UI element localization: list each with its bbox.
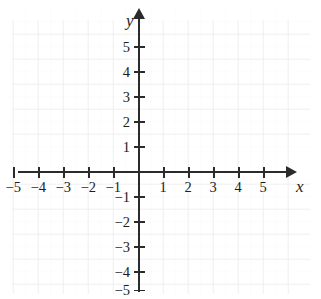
y-tick-label: 5 [104,40,130,55]
y-axis-tick [134,196,145,198]
x-axis-tick [113,167,115,178]
y-axis-tick [134,221,145,223]
y-tick-label: −2 [104,215,130,230]
y-axis-arrow-icon [133,8,145,19]
y-axis-tick [134,46,145,48]
y-tick-label: −5 [104,283,130,298]
x-axis-tick [13,167,15,178]
x-axis-label: x [296,178,304,195]
x-axis-tick [213,167,215,178]
y-axis-tick [134,271,145,273]
y-tick-label: 2 [104,115,130,130]
y-axis-label: y [126,12,134,29]
y-tick-label: 3 [104,90,130,105]
x-axis-tick [63,167,65,178]
x-tick-label: −3 [50,180,76,195]
y-tick-label: 1 [104,140,130,155]
x-tick-label: 4 [225,180,251,195]
y-axis-line [138,18,140,292]
x-axis-line [18,171,288,173]
grid-minor-lines [8,8,312,296]
grid [0,0,321,299]
y-axis-tick [134,290,145,292]
y-axis-tick [134,146,145,148]
grid-major-lines [12,20,310,294]
x-axis-tick [163,167,165,178]
x-tick-label: −4 [25,180,51,195]
y-tick-label: −4 [104,265,130,280]
x-tick-label: 3 [200,180,226,195]
x-axis-tick [238,167,240,178]
y-axis-tick [134,71,145,73]
x-tick-label: 5 [250,180,276,195]
x-axis-arrow-icon [286,166,297,178]
y-tick-label: −3 [104,240,130,255]
y-axis-tick [134,246,145,248]
x-axis-tick [88,167,90,178]
y-axis-tick [134,96,145,98]
coordinate-plane: −5 −4 −3 −2 −1 1 2 3 4 5 5 4 3 2 1 −1 −2… [0,0,321,299]
y-tick-label: −1 [104,190,130,205]
x-axis-tick [38,167,40,178]
x-axis-tick [263,167,265,178]
y-tick-label: 4 [104,65,130,80]
x-tick-label: −5 [0,180,26,195]
x-tick-label: 2 [175,180,201,195]
x-axis-tick [188,167,190,178]
x-tick-label: −2 [75,180,101,195]
y-axis-tick [134,121,145,123]
x-tick-label: 1 [150,180,176,195]
